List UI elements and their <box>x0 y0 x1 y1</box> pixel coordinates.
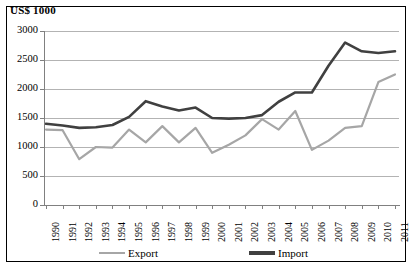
y-tick-1500 <box>40 118 44 119</box>
series-line-import <box>46 43 395 128</box>
chart-container: US$ 1000 300025002000150010005000 199019… <box>0 0 414 271</box>
x-tick-1992 <box>79 205 80 209</box>
x-tick-2001 <box>229 205 230 209</box>
x-tick-1994 <box>112 205 113 209</box>
legend-swatch-import <box>249 251 275 254</box>
series-lines <box>44 31 399 205</box>
x-axis-label: 2008 <box>349 222 360 242</box>
x-axis-label: 1999 <box>200 222 211 242</box>
legend-label: Export <box>128 247 158 259</box>
y-axis-label: 3000 <box>17 24 38 35</box>
y-tick-3000 <box>40 31 44 32</box>
series-line-export <box>46 75 395 160</box>
x-axis-label: 2007 <box>333 222 344 242</box>
y-tick-500 <box>40 176 44 177</box>
x-tick-1998 <box>179 205 180 209</box>
x-axis-label: 2001 <box>233 222 244 242</box>
x-axis-label: 2010 <box>382 222 393 242</box>
y-axis-label: 500 <box>22 169 38 180</box>
x-tick-1999 <box>196 205 197 209</box>
legend-swatch-export <box>99 252 125 255</box>
x-tick-1997 <box>162 205 163 209</box>
x-tick-2008 <box>345 205 346 209</box>
x-axis-label: 2000 <box>216 222 227 242</box>
y-axis-label: 1500 <box>17 111 38 122</box>
x-axis-label: 2009 <box>366 222 377 242</box>
legend-item-export[interactable]: Export <box>99 247 158 259</box>
x-tick-2007 <box>329 205 330 209</box>
x-tick-2002 <box>245 205 246 209</box>
x-axis-label: 2006 <box>316 222 327 242</box>
y-axis-label: 1000 <box>17 140 38 151</box>
y-axis-label: 2000 <box>17 82 38 93</box>
legend-label: Import <box>278 247 308 259</box>
x-axis-label: 1994 <box>116 222 127 242</box>
x-axis-label: 1996 <box>150 222 161 242</box>
x-axis-label: 1991 <box>67 222 78 242</box>
y-tick-1000 <box>40 147 44 148</box>
y-axis-line <box>44 31 45 206</box>
x-axis-label: 2011 <box>399 222 410 242</box>
x-axis-label: 1993 <box>100 222 111 242</box>
x-axis-label: 1990 <box>50 222 61 242</box>
x-axis-label: 2003 <box>266 222 277 242</box>
x-axis-label: 1997 <box>166 222 177 242</box>
y-tick-0 <box>40 205 44 206</box>
x-tick-1993 <box>96 205 97 209</box>
x-tick-1995 <box>129 205 130 209</box>
x-tick-2011 <box>395 205 396 209</box>
y-axis-labels: 300025002000150010005000 <box>0 0 38 271</box>
x-tick-2003 <box>262 205 263 209</box>
legend-item-import[interactable]: Import <box>249 247 308 259</box>
x-axis-label: 1995 <box>133 222 144 242</box>
y-tick-2000 <box>40 89 44 90</box>
x-axis-label: 2004 <box>283 222 294 242</box>
y-axis-label: 2500 <box>17 53 38 64</box>
x-tick-2000 <box>212 205 213 209</box>
x-tick-2005 <box>295 205 296 209</box>
y-axis-label: 0 <box>33 198 38 209</box>
x-tick-1990 <box>46 205 47 209</box>
x-tick-1996 <box>146 205 147 209</box>
x-tick-2010 <box>378 205 379 209</box>
x-axis-label: 1998 <box>183 222 194 242</box>
chart-legend: ExportImport <box>44 247 400 263</box>
x-tick-2004 <box>279 205 280 209</box>
x-tick-2009 <box>362 205 363 209</box>
x-tick-2006 <box>312 205 313 209</box>
plot-area <box>44 31 399 205</box>
x-axis-label: 1992 <box>83 222 94 242</box>
x-axis-line <box>44 205 400 206</box>
x-tick-1991 <box>63 205 64 209</box>
x-axis-label: 2002 <box>249 222 260 242</box>
x-axis-label: 2005 <box>299 222 310 242</box>
y-tick-2500 <box>40 60 44 61</box>
